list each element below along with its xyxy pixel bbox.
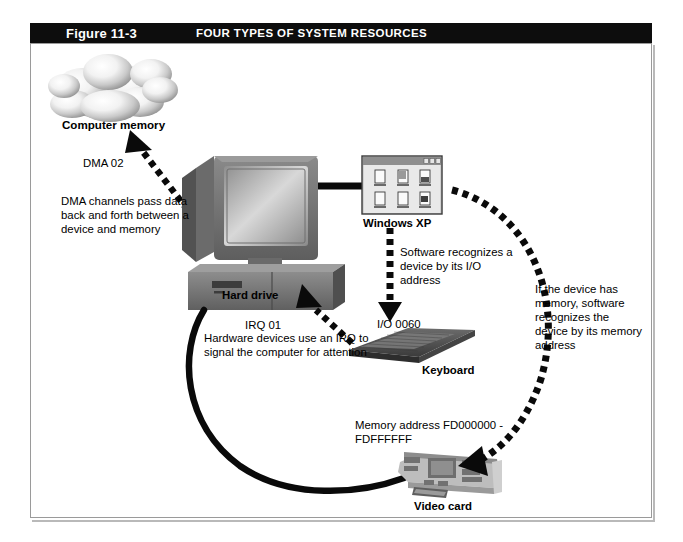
label-memory-address: Memory address FD000000 - FDFFFFFF bbox=[355, 418, 515, 446]
label-dma-description: DMA channels pass data back and forth be… bbox=[61, 194, 191, 236]
label-computer-memory: Computer memory bbox=[62, 118, 165, 132]
figure-title-bar: Figure 11-3 FOUR TYPES OF SYSTEM RESOURC… bbox=[30, 23, 652, 43]
label-irq: IRQ 01 bbox=[245, 318, 281, 332]
canvas-shadow-right bbox=[653, 45, 655, 522]
label-windows-xp: Windows XP bbox=[363, 216, 431, 230]
canvas-shadow-bottom bbox=[32, 520, 655, 522]
figure-caption: FOUR TYPES OF SYSTEM RESOURCES bbox=[196, 27, 427, 39]
label-dma-channel: DMA 02 bbox=[83, 156, 124, 170]
label-memory-software-description: If the device has memory, software recog… bbox=[535, 282, 645, 352]
diagram-canvas bbox=[30, 43, 652, 518]
label-software-io-description: Software recognizes a device by its I/O … bbox=[400, 245, 520, 287]
label-io-address: I/O 0060 bbox=[377, 317, 421, 331]
label-keyboard: Keyboard bbox=[422, 363, 475, 377]
label-irq-description: Hardware devices use an IRQ to signal th… bbox=[204, 331, 384, 359]
label-hard-drive: Hard drive bbox=[222, 288, 278, 302]
label-video-card: Video card bbox=[414, 499, 472, 513]
figure-root: Figure 11-3 FOUR TYPES OF SYSTEM RESOURC… bbox=[0, 0, 683, 542]
figure-number: Figure 11-3 bbox=[66, 26, 137, 41]
